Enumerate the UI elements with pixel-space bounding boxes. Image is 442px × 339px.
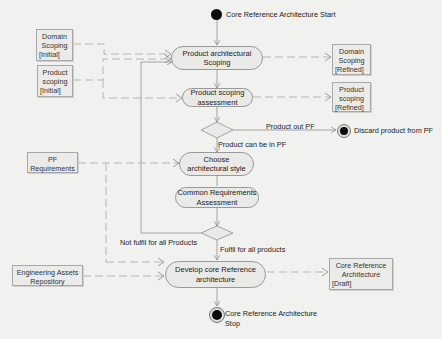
activity-common-requirements-assessment[interactable]: Common RequirementsAssessment: [175, 187, 259, 208]
object-pf-requirements[interactable]: PFRequirements: [27, 152, 78, 173]
activity-label: Common Requirements: [177, 188, 256, 197]
object-core-reference-architecture-draft[interactable]: Core ReferenceArchitecture [Draft]: [329, 258, 393, 290]
activity-product-scoping-assessment[interactable]: Product scopingassessment: [182, 88, 253, 107]
end-label-line2: Stop: [225, 319, 240, 328]
object-state: [Refined]: [333, 65, 370, 74]
object-label: Scoping: [339, 56, 365, 65]
object-state: [Draft]: [330, 279, 392, 288]
object-label: Architecture: [342, 270, 380, 279]
activity-product-architectural-scoping[interactable]: Product architecturalScoping: [171, 46, 263, 70]
decision-fulfil-diamond: [201, 226, 233, 240]
object-label: PF: [48, 155, 57, 164]
end-label-line1: Core Reference Architecture: [225, 309, 317, 318]
object-engineering-assets-repository[interactable]: Engineering AssetsRepository: [12, 265, 83, 286]
object-product-scoping-refined[interactable]: Productscoping [Refined]: [332, 82, 371, 112]
object-state: [Initial]: [37, 50, 72, 59]
object-label: Repository: [30, 277, 64, 286]
activity-label: architecture: [196, 275, 235, 284]
guard-fulfil: Fulfil for all products: [220, 245, 285, 254]
object-label: Product: [339, 85, 364, 94]
object-label: Engineering Assets: [17, 268, 79, 277]
activity-label: architectural style: [187, 164, 245, 173]
discard-final-node-core: [340, 127, 348, 135]
start-node: [211, 9, 222, 20]
activity-develop-core-reference-architecture[interactable]: Develop core Referencearchitecture: [165, 261, 266, 288]
object-label: Domain: [42, 32, 67, 41]
activity-label: Assessment: [197, 198, 238, 207]
object-label: scoping: [339, 94, 364, 103]
object-state: [Initial]: [38, 86, 72, 95]
activity-label: assessment: [197, 98, 237, 107]
object-label: Domain: [339, 47, 364, 56]
activity-choose-architectural-style[interactable]: Choosearchitectural style: [179, 152, 254, 176]
activity-label: Scoping: [203, 58, 230, 67]
object-product-scoping-initial[interactable]: Productscoping [Initial]: [37, 65, 73, 97]
object-label: Product: [43, 68, 68, 77]
object-label: Core Reference: [336, 261, 387, 270]
object-domain-scoping-refined[interactable]: DomainScoping [Refined]: [332, 44, 371, 75]
decision-pf-diamond: [201, 122, 233, 138]
object-domain-scoping-initial[interactable]: DomainScoping [Initial]: [36, 29, 73, 61]
object-label: Requirements: [30, 164, 75, 173]
guard-product-can-be-in-pf: Product can be in PF: [218, 140, 286, 149]
object-label: scoping: [43, 77, 68, 86]
activity-label: Product scoping: [191, 88, 245, 97]
activity-label: Product architectural: [183, 49, 252, 58]
activity-label: Choose: [204, 155, 230, 164]
object-state: [Refined]: [333, 103, 370, 112]
activity-label: Develop core Reference: [175, 265, 256, 274]
guard-product-out-pf: Product out PF: [266, 122, 315, 131]
start-label: Core Reference Architecture Start: [226, 10, 336, 19]
guard-not-fulfil: Not fulfil for all Products: [120, 238, 197, 247]
object-label: Scoping: [42, 41, 68, 50]
end-node-core: [212, 310, 222, 320]
discard-label: Discard product from PF: [354, 126, 433, 135]
